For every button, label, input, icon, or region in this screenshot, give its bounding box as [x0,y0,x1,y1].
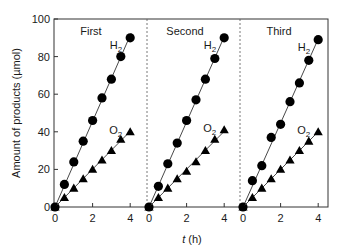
o2-series-label: O2 [297,124,311,139]
h2-circle-marker [220,33,229,42]
panel-title: Second [166,25,203,37]
chart-svg: 020406080100 024024024 FirstH2O2SecondH2… [0,0,345,252]
x-tick-label: 2 [278,212,284,224]
panel-title: Third [266,25,291,37]
h2-circle-marker [88,116,97,125]
y-tick-label: 100 [32,13,50,25]
h2-circle-marker [285,97,294,106]
h2-circle-marker [314,35,323,44]
h2-circle-marker [276,120,285,129]
h2-circle-marker [295,78,304,87]
y-tick-label: 0 [44,201,50,213]
h2-circle-marker [60,180,69,189]
h2-circle-marker [79,137,88,146]
panel-title: First [80,25,101,37]
h2-circle-marker [182,116,191,125]
h2-circle-marker [210,54,219,63]
x-axis-label: t (h) [182,233,202,245]
y-tick-label: 20 [38,163,50,175]
panel-dividers [147,19,240,207]
x-tick-label: 4 [221,212,227,224]
x-tick-label: 4 [315,212,321,224]
y-tick-label: 80 [38,51,50,63]
x-tick-label: 0 [240,212,246,224]
h2-circle-marker [107,75,116,84]
h2-circle-marker [201,75,210,84]
h2-circle-marker [267,133,276,142]
o2-series-label: O2 [109,124,123,139]
o2-triangle-marker [182,167,191,175]
h2-circle-marker [304,56,313,65]
h2-series-label: H2 [110,39,123,54]
x-tick-label: 2 [184,212,190,224]
o2-triangle-marker [314,127,323,135]
h2-circle-marker [154,182,163,191]
panel-second: SecondH2O2 [144,25,228,212]
h2-circle-marker [163,159,172,168]
x-axis-label-unit: (h) [185,233,202,245]
y-axis-label: Amount of products (µmol) [10,48,22,178]
h2-circle-marker [257,161,266,170]
panel-third: ThirdH2O2 [238,25,322,212]
x-tick-label: 2 [90,212,96,224]
h2-circle-marker [191,95,200,104]
x-axis: 024024024 [52,203,321,224]
y-tick-label: 40 [38,126,50,138]
o2-triangle-marker [220,125,229,133]
h2-circle-marker [126,33,135,42]
h2-circle-marker [248,176,257,185]
x-tick-label: 4 [127,212,133,224]
h2-circle-marker [173,138,182,147]
y-tick-label: 60 [38,88,50,100]
o2-triangle-marker [191,157,200,165]
x-tick-label: 0 [146,212,152,224]
h2-circle-marker [97,93,106,102]
panel-first: FirstH2O2 [50,25,134,212]
x-tick-label: 0 [52,212,58,224]
o2-series-label: O2 [203,122,217,137]
h2-circle-marker [69,157,78,166]
h2-series-label: H2 [298,41,311,56]
h2-series-label: H2 [204,39,217,54]
o2-triangle-marker [126,127,135,135]
chart-container: 020406080100 024024024 FirstH2O2SecondH2… [0,0,345,252]
panels: FirstH2O2SecondH2O2ThirdH2O2 [50,25,322,212]
